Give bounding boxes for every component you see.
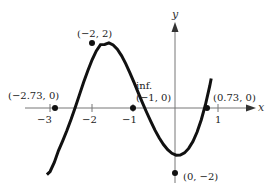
label-inflection-note: inf. [136, 80, 152, 91]
point-local-min [172, 170, 178, 176]
label-local-max: (−2, 2) [77, 28, 112, 39]
label-root-right: (0.73, 0) [213, 92, 256, 103]
tick-label-neg1: −1 [122, 114, 137, 125]
tick-label-1: 1 [215, 114, 221, 125]
point-root-left [52, 105, 58, 111]
point-root-right [204, 105, 210, 111]
x-axis-arrow-icon [246, 105, 256, 112]
y-axis-arrow-icon [172, 22, 179, 32]
label-local-min: (0, −2) [183, 171, 218, 182]
point-inflection [130, 105, 136, 111]
tick-label-neg2: −2 [82, 114, 97, 125]
function-graph: x y −3 −2 −1 1 (−2.73, 0) (−2, 2) inf. (… [0, 0, 266, 191]
label-inflection: (−1, 0) [136, 92, 171, 103]
x-axis-label: x [258, 101, 265, 114]
y-axis-label: y [171, 8, 179, 21]
label-root-left: (−2.73, 0) [8, 90, 59, 101]
point-local-max [89, 40, 95, 46]
function-curve [47, 43, 211, 175]
tick-label-neg3: −3 [37, 114, 52, 125]
